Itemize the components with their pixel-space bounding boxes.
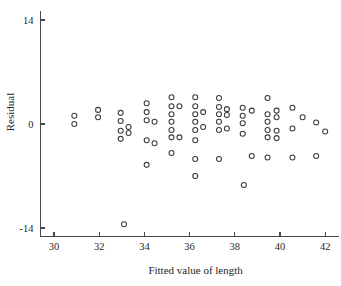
scatter-point: [193, 127, 198, 132]
scatter-point: [144, 118, 149, 123]
scatter-point: [177, 104, 182, 109]
scatter-point: [323, 129, 328, 134]
scatter-point: [177, 135, 182, 140]
scatter-point: [122, 222, 127, 227]
scatter-point: [169, 104, 174, 109]
scatter-point: [169, 135, 174, 140]
scatter-data-points: [72, 95, 328, 227]
y-axis-title: Residual: [4, 93, 16, 132]
scatter-point: [72, 113, 77, 118]
scatter-point: [290, 155, 295, 160]
scatter-point: [201, 124, 206, 129]
scatter-point: [274, 108, 279, 113]
scatter-point: [224, 107, 229, 112]
scatter-point: [193, 104, 198, 109]
scatter-point: [169, 127, 174, 132]
scatter-point: [201, 110, 206, 115]
scatter-point: [96, 115, 101, 120]
scatter-point: [118, 136, 123, 141]
scatter-point: [265, 155, 270, 160]
scatter-point: [193, 156, 198, 161]
scatter-point: [144, 101, 149, 106]
x-tick-label: 42: [320, 241, 331, 252]
scatter-point: [118, 128, 123, 133]
scatter-point: [216, 95, 221, 100]
y-axis-tick-labels: 140-14: [19, 15, 34, 234]
scatter-point: [249, 108, 254, 113]
scatter-point: [193, 95, 198, 100]
scatter-point: [216, 119, 221, 124]
scatter-point: [216, 112, 221, 117]
residual-scatter-plot-figure: 30323436384042 140-14 Fitted value of le…: [0, 0, 341, 286]
y-tick-label: 14: [23, 15, 34, 26]
scatter-point: [216, 156, 221, 161]
scatter-point: [265, 127, 270, 132]
scatter-point: [240, 113, 245, 118]
scatter-point: [169, 112, 174, 117]
x-axis-title: Fitted value of length: [148, 264, 243, 276]
scatter-point: [216, 127, 221, 132]
y-axis-ticks: [40, 20, 45, 228]
y-tick-label: -14: [19, 223, 34, 234]
scatter-point: [152, 119, 157, 124]
scatter-point: [144, 162, 149, 167]
x-axis-tick-labels: 30323436384042: [49, 241, 331, 252]
scatter-point: [193, 174, 198, 179]
scatter-point: [118, 110, 123, 115]
scatter-point: [265, 135, 270, 140]
x-tick-label: 36: [184, 241, 195, 252]
scatter-point: [193, 138, 198, 143]
scatter-point: [274, 115, 279, 120]
scatter-point: [274, 136, 279, 141]
y-tick-label: 0: [28, 119, 33, 130]
scatter-point: [290, 126, 295, 131]
scatter-point: [265, 112, 270, 117]
scatter-point: [118, 119, 123, 124]
scatter-point: [126, 124, 131, 129]
scatter-point: [224, 113, 229, 118]
scatter-point: [300, 115, 305, 120]
x-tick-label: 40: [275, 241, 286, 252]
scatter-point: [152, 141, 157, 146]
scatter-point: [290, 105, 295, 110]
scatter-point: [314, 120, 319, 125]
scatter-point: [126, 130, 131, 135]
scatter-point: [144, 110, 149, 115]
scatter-point: [274, 128, 279, 133]
scatter-point: [224, 126, 229, 131]
scatter-point: [240, 121, 245, 126]
scatter-point: [96, 107, 101, 112]
scatter-point: [216, 104, 221, 109]
scatter-point: [240, 105, 245, 110]
scatter-point: [241, 182, 246, 187]
axis-group: [40, 11, 338, 237]
scatter-point: [249, 153, 254, 158]
scatter-point: [169, 119, 174, 124]
scatter-point: [169, 150, 174, 155]
scatter-point: [144, 138, 149, 143]
scatter-point: [314, 153, 319, 158]
scatter-point: [265, 95, 270, 100]
x-tick-label: 34: [139, 241, 150, 252]
x-tick-label: 32: [94, 241, 105, 252]
x-tick-label: 30: [49, 241, 60, 252]
scatter-point: [240, 131, 245, 136]
scatter-point: [265, 119, 270, 124]
x-axis-ticks: [54, 232, 325, 237]
scatter-point: [193, 119, 198, 124]
scatter-point: [72, 122, 77, 127]
scatter-point: [193, 112, 198, 117]
scatter-point: [169, 95, 174, 100]
x-tick-label: 38: [230, 241, 241, 252]
plot-canvas: 30323436384042 140-14 Fitted value of le…: [0, 0, 341, 286]
